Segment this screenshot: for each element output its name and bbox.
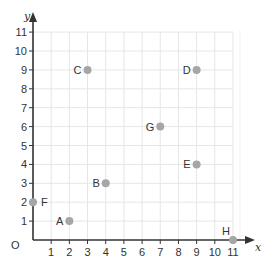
x-axis-arrow-icon (245, 236, 255, 244)
data-points: ABCDEFGH (29, 64, 237, 244)
x-tick-label: 2 (66, 246, 72, 258)
x-tick-label: 6 (139, 246, 145, 258)
point-label-e: E (183, 158, 190, 170)
point-label-a: A (56, 215, 64, 227)
point-g (156, 123, 164, 131)
point-label-c: C (74, 64, 82, 76)
y-tick-label: 3 (21, 177, 27, 189)
x-tick-label: 4 (103, 246, 109, 258)
x-tick-label: 9 (194, 246, 200, 258)
point-h (229, 236, 237, 244)
point-label-h: H (222, 225, 230, 237)
x-tick-label: 8 (175, 246, 181, 258)
y-tick-label: 1 (21, 215, 27, 227)
y-tick-label: 8 (21, 83, 27, 95)
point-label-g: G (146, 121, 155, 133)
y-tick-label: 11 (16, 26, 27, 38)
x-tick-label: 11 (227, 246, 238, 258)
y-tick-label: 4 (21, 158, 27, 170)
y-tick-label: 7 (21, 102, 27, 114)
point-e (193, 160, 201, 168)
x-tick-label: 7 (157, 246, 163, 258)
point-a (65, 217, 73, 225)
point-d (193, 66, 201, 74)
x-tick-label: 5 (121, 246, 127, 258)
x-axis-label: x (255, 241, 262, 254)
point-label-d: D (183, 64, 191, 76)
point-c (84, 66, 92, 74)
point-f (29, 198, 37, 206)
point-b (102, 179, 110, 187)
origin-label: O (11, 239, 20, 251)
y-tick-label: 6 (21, 121, 27, 133)
x-tick-label: 10 (209, 246, 221, 258)
x-tick-label: 3 (84, 246, 90, 258)
y-tick-label: 2 (21, 196, 27, 208)
grid-lines (33, 30, 240, 240)
y-tick-label: 5 (21, 140, 27, 152)
point-label-f: F (41, 196, 48, 208)
y-tick-label: 10 (15, 45, 27, 57)
point-label-b: B (92, 177, 99, 189)
y-tick-label: 9 (21, 64, 27, 76)
coordinate-grid-chart: xyO12345678910111234567891011 ABCDEFGH (0, 0, 266, 275)
y-axis-label: y (23, 10, 31, 23)
x-tick-label: 1 (48, 246, 54, 258)
